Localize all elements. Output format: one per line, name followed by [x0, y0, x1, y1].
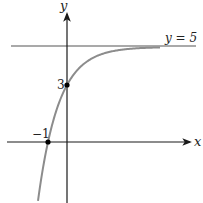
- y-intercept-point: [64, 82, 69, 87]
- function-curve: [38, 47, 160, 200]
- x-axis-label: x: [194, 134, 202, 149]
- y-intercept-label: 3: [57, 78, 65, 92]
- x-intercept-label: −1: [32, 127, 50, 141]
- y-axis-label: y: [59, 0, 68, 13]
- asymptote-label: y = 5: [164, 31, 197, 45]
- function-graph: y x y = 5 3 −1: [0, 0, 203, 203]
